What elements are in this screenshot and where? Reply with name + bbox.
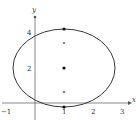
x-tick: −1 xyxy=(1,108,11,116)
ellipse-chart: x y −1 1 2 3 2 4 xyxy=(0,0,136,120)
x-tick: 3 xyxy=(120,108,124,116)
y-tick: 4 xyxy=(27,29,32,37)
y-axis-label: y xyxy=(31,6,37,14)
y-tick: 2 xyxy=(27,65,31,73)
y-axis-end-icon xyxy=(34,16,37,19)
focus-point xyxy=(63,91,66,94)
x-axis-label: x xyxy=(132,96,136,104)
vertex-point xyxy=(62,27,65,30)
vertex-point xyxy=(62,105,65,108)
x-tick: 2 xyxy=(91,108,95,116)
chart-canvas: x y −1 1 2 3 2 4 xyxy=(0,0,136,120)
focus-point xyxy=(63,42,66,45)
x-tick: 1 xyxy=(62,108,66,116)
center-point xyxy=(62,66,65,69)
